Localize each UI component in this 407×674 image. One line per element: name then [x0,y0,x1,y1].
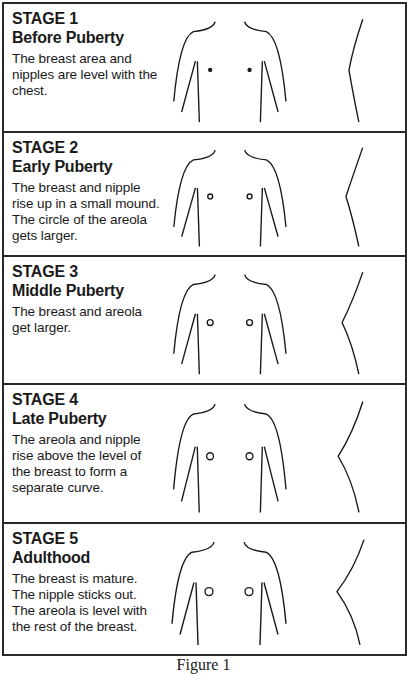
stage-text: STAGE 1Before PubertyThe breast area and… [12,9,162,99]
stage-illustration [164,133,405,255]
stage-illustration [164,257,405,383]
stage-text: STAGE 3Middle PubertyThe breast and areo… [12,262,162,336]
stage-description: The breast and areola get larger. [12,304,162,336]
stage-text: STAGE 2Early PubertyThe breast and nippl… [12,138,162,244]
stage-illustration [164,524,405,654]
stage-text: STAGE 4Late PubertyThe areola and nipple… [12,390,162,496]
stage-number: STAGE 4 [12,390,162,409]
stage-row: STAGE 5AdulthoodThe breast is mature. Th… [4,524,405,654]
torso-outline-icon [164,4,405,131]
stage-description: The areola and nipple rise above the lev… [12,432,162,496]
staging-figure: STAGE 1Before PubertyThe breast area and… [2,2,407,656]
stage-illustration [164,4,405,131]
stage-row: STAGE 3Middle PubertyThe breast and areo… [4,257,405,385]
stage-phase: Adulthood [12,548,162,567]
stage-description: The breast area and nipples are level wi… [12,51,162,99]
stage-phase: Late Puberty [12,409,162,428]
stage-phase: Before Puberty [12,28,162,47]
stage-number: STAGE 3 [12,262,162,281]
stage-number: STAGE 5 [12,529,162,548]
figure-caption: Figure 1 [0,656,407,674]
torso-outline-icon [164,385,405,522]
torso-outline-icon [164,257,405,383]
stage-row: STAGE 2Early PubertyThe breast and nippl… [4,133,405,257]
stage-description: The breast is mature. The nipple sticks … [12,571,162,635]
stage-row: STAGE 4Late PubertyThe areola and nipple… [4,385,405,524]
stage-row: STAGE 1Before PubertyThe breast area and… [4,4,405,133]
torso-outline-icon [164,133,405,255]
stage-phase: Middle Puberty [12,281,162,300]
stage-description: The breast and nipple rise up in a small… [12,180,162,244]
stage-phase: Early Puberty [12,157,162,176]
stage-number: STAGE 1 [12,9,162,28]
stage-illustration [164,385,405,522]
torso-outline-icon [164,524,405,654]
stage-number: STAGE 2 [12,138,162,157]
stage-text: STAGE 5AdulthoodThe breast is mature. Th… [12,529,162,635]
